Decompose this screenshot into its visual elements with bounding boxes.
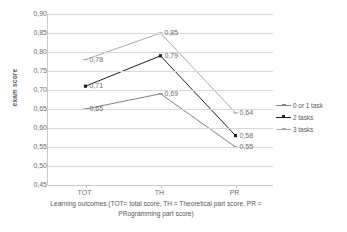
x-tick-label-pr: PR [215,189,255,196]
data-point-label: 0,71 [90,82,104,89]
legend-item[interactable]: 3 tasks [276,123,346,135]
y-tick-label: 0,75 [21,67,47,74]
gridline [48,14,273,15]
series-line [86,33,236,113]
chart-legend: 0 or 1 task2 tasks3 tasks [276,99,346,135]
x-tickmark [161,185,162,188]
y-tick-label: 0,60 [21,124,47,131]
gridline [48,71,273,72]
legend-key-icon [276,113,291,121]
legend-label: 3 tasks [293,126,313,133]
data-point-label: 0,79 [165,52,179,59]
legend-key-icon [276,125,291,133]
plot-area: 0,650,690,550,710,790,580,780,850,64 [47,14,272,185]
data-point-label: 0,58 [240,132,254,139]
data-point-marker [234,134,237,137]
data-point-label: 0,85 [165,29,179,36]
y-tick-label: 0,65 [21,105,47,112]
legend-label: 2 tasks [293,114,313,121]
data-point-marker [84,85,87,88]
data-point-label: 0,78 [90,56,104,63]
x-axis-title-line2: PRogramming part score) [118,210,194,217]
y-tick-label: 0,70 [21,86,47,93]
x-tickmark [86,185,87,188]
gridline [48,128,273,129]
data-point-marker [233,112,237,113]
data-point-marker [83,59,87,60]
data-point-label: 0,65 [90,105,104,112]
gridline [48,166,273,167]
x-axis-title-line1: Learning outcomes (TOT= total score, TH … [50,200,261,207]
x-tickmark [236,185,237,188]
y-tick-label: 0,80 [21,48,47,55]
y-tick-label: 0,55 [21,143,47,150]
legend-item[interactable]: 2 tasks [276,111,346,123]
y-tick-label: 0,45 [21,181,47,188]
data-point-marker [158,93,162,94]
gridline [48,52,273,53]
x-axis-title: Learning outcomes (TOT= total score, TH … [26,199,286,218]
legend-label: 0 or 1 task [293,102,323,109]
data-point-marker [159,54,162,57]
gridline [48,90,273,91]
series-layer [48,14,273,185]
y-tick-label: 0,85 [21,29,47,36]
x-tick-label-th: TH [140,189,180,196]
series-line [86,94,236,147]
data-point-label: 0,64 [240,109,254,116]
legend-key-icon [276,101,291,109]
y-tick-label: 0,50 [21,162,47,169]
legend-item[interactable]: 0 or 1 task [276,99,346,111]
y-axis-tick-labels: 0,900,850,800,750,700,650,600,550,500,45 [14,0,47,232]
y-tick-label: 0,90 [21,10,47,17]
gridline [48,33,273,34]
series-line [86,56,236,136]
line-chart: exam score 0,900,850,800,750,700,650,600… [0,0,347,232]
x-tick-label-tot: TOT [65,189,105,196]
data-point-label: 0,69 [165,90,179,97]
data-point-label: 0,55 [240,143,254,150]
